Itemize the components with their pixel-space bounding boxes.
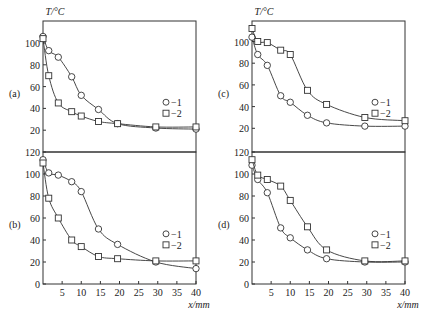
circle-marker	[362, 123, 368, 129]
y-axis-label: T/°C	[45, 6, 64, 17]
legend-label-1: −1	[380, 97, 391, 108]
legend-circle-icon	[372, 231, 378, 237]
y-tick-label: 80	[239, 191, 249, 202]
circle-marker	[68, 179, 74, 185]
x-tick-label: 10	[285, 287, 295, 298]
panel-c: 20406080100T/°C(c)−1−2	[218, 6, 408, 152]
legend-label-1: −1	[171, 97, 182, 108]
circle-marker	[68, 74, 74, 80]
circle-marker	[55, 54, 61, 60]
y-tick-label: 0	[244, 279, 249, 290]
square-marker	[78, 113, 84, 119]
y-tick-label: 20	[239, 257, 249, 268]
legend-circle-icon	[163, 99, 169, 105]
square-marker	[69, 109, 75, 115]
legend-circle-icon	[163, 231, 169, 237]
square-marker	[402, 118, 408, 124]
circle-marker	[114, 241, 120, 247]
legend-label-2: −2	[380, 240, 391, 251]
square-marker	[249, 25, 255, 31]
circle-marker	[323, 120, 329, 126]
circle-marker	[95, 106, 101, 112]
x-tick-label: 15	[304, 287, 314, 298]
circle-marker	[287, 99, 293, 105]
circle-marker	[55, 172, 61, 178]
square-marker	[264, 40, 270, 46]
panel-label: (c)	[218, 88, 229, 100]
x-tick-label: 10	[76, 287, 86, 298]
legend-label-1: −1	[171, 229, 182, 240]
x-tick-label: 30	[362, 287, 372, 298]
circle-marker	[277, 225, 283, 231]
square-marker	[324, 247, 330, 253]
panel-label: (b)	[9, 219, 21, 231]
x-tick-label: 15	[95, 287, 105, 298]
panel-a: 20406080100T/°C(a)−1−2	[9, 6, 199, 152]
circle-marker	[95, 226, 101, 232]
y-tick-label: 20	[30, 125, 40, 136]
y-tick-label: 60	[239, 213, 249, 224]
y-tick-label: 100	[234, 37, 249, 48]
legend-circle-icon	[372, 99, 378, 105]
y-tick-label: 20	[239, 123, 249, 134]
y-tick-label: 100	[25, 169, 40, 180]
square-marker	[278, 47, 284, 53]
x-tick-label: 20	[324, 287, 334, 298]
x-tick-label: 20	[115, 287, 125, 298]
circle-marker	[255, 51, 261, 57]
square-marker	[278, 183, 284, 189]
square-marker	[193, 258, 199, 264]
legend-label-1: −1	[380, 229, 391, 240]
square-marker	[362, 258, 368, 264]
y-tick-label: 40	[30, 103, 40, 114]
square-marker	[255, 39, 261, 45]
circle-marker	[323, 256, 329, 262]
legend-square-icon	[372, 242, 378, 248]
x-tick-label: 5	[60, 287, 65, 298]
square-marker	[95, 254, 101, 260]
square-marker	[40, 160, 46, 166]
square-marker	[95, 118, 101, 124]
legend-label-2: −2	[380, 108, 391, 119]
circle-marker	[264, 62, 270, 68]
y-axis-label: T/°C	[254, 6, 273, 17]
square-marker	[40, 36, 46, 42]
square-marker	[287, 197, 293, 203]
y-tick-label: 40	[239, 235, 249, 246]
square-marker	[287, 52, 293, 58]
y-tick-label: 80	[30, 60, 40, 71]
plot-frame	[43, 152, 196, 284]
legend-label-2: −2	[171, 108, 182, 119]
square-marker	[362, 114, 368, 120]
x-tick-label: 40	[400, 287, 410, 298]
x-tick-label: 40	[191, 287, 201, 298]
square-marker	[153, 258, 159, 264]
circle-marker	[264, 190, 270, 196]
circle-marker	[193, 265, 199, 271]
square-marker	[402, 258, 408, 264]
square-marker	[46, 195, 52, 201]
x-tick-label: 35	[172, 287, 182, 298]
legend-square-icon	[163, 242, 169, 248]
x-axis-label: x/mm	[396, 299, 419, 310]
circle-marker	[78, 188, 84, 194]
x-tick-label: 35	[381, 287, 391, 298]
square-marker	[264, 177, 270, 183]
y-tick-label: 80	[30, 191, 40, 202]
square-marker	[304, 87, 310, 93]
circle-marker	[78, 92, 84, 98]
square-marker	[304, 224, 310, 230]
square-marker	[78, 244, 84, 250]
y-tick-label: 60	[30, 82, 40, 93]
square-marker	[193, 124, 199, 130]
panel-b: 020406080100120510152025303540x/mm(b)−1−…	[9, 147, 210, 310]
circle-marker	[46, 170, 52, 176]
square-marker	[153, 124, 159, 130]
panel-label: (d)	[218, 219, 230, 231]
plot-frame	[252, 21, 405, 152]
y-tick-label: 100	[25, 38, 40, 49]
circle-marker	[304, 247, 310, 253]
y-tick-label: 120	[234, 147, 249, 158]
x-tick-label: 30	[153, 287, 163, 298]
y-tick-label: 120	[25, 147, 40, 158]
